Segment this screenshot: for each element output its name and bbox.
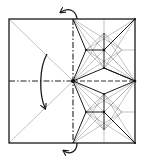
flip-arrow-top-icon — [61, 10, 77, 19]
flip-arrow-bottom-icon — [64, 143, 77, 153]
crease-pattern-diagram — [0, 0, 144, 164]
